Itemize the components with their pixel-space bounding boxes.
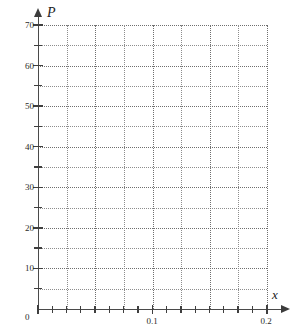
y-axis-title: P (47, 6, 56, 20)
gridline-vertical (67, 25, 68, 309)
gridline-vertical (124, 25, 125, 309)
gridline-vertical (181, 25, 182, 309)
x-axis-tick-label: 0.2 (260, 317, 271, 326)
y-axis-tick-major (33, 268, 43, 270)
y-axis-tick-label: 30 (25, 183, 34, 192)
y-axis-tick-label: 40 (25, 142, 34, 151)
y-axis-tick-major (33, 187, 43, 189)
y-axis-tick-major (33, 65, 43, 67)
origin-label: 0 (25, 313, 30, 322)
y-axis-tick-major (33, 24, 43, 26)
y-axis-tick-minor (34, 85, 42, 86)
x-axis-tick-minor (109, 306, 110, 313)
y-axis-tick-major (33, 105, 43, 107)
y-axis-tick-major (33, 146, 43, 148)
gridline-vertical (238, 25, 239, 309)
x-axis-tick-major (266, 305, 268, 314)
x-axis-tick-minor (223, 306, 224, 313)
gridline-vertical (95, 25, 96, 309)
x-axis-tick-label: 0.1 (146, 317, 157, 326)
y-axis-tick-label: 50 (25, 102, 34, 111)
y-axis-tick-minor (34, 288, 42, 289)
y-axis-tick-minor (34, 126, 42, 127)
y-axis-arrow-icon (34, 8, 42, 17)
gridline-vertical (267, 25, 268, 309)
x-axis-tick-minor (123, 306, 124, 313)
x-axis-tick-minor (94, 306, 95, 313)
plot-grid-area (38, 25, 267, 309)
gridline-vertical (210, 25, 211, 309)
x-axis-tick-major (37, 305, 39, 314)
x-axis-tick-minor (237, 306, 238, 313)
y-axis-tick-minor (34, 166, 42, 167)
x-axis-tick-minor (209, 306, 210, 313)
x-axis-line (38, 309, 284, 310)
y-axis-tick-label: 20 (25, 223, 34, 232)
x-axis-title: x (272, 288, 278, 301)
y-axis-tick-label: 60 (25, 61, 34, 70)
x-axis-tick-minor (137, 306, 138, 313)
x-axis-tick-minor (195, 306, 196, 313)
y-axis-tick-minor (34, 247, 42, 248)
x-axis-tick-minor (66, 306, 67, 313)
x-axis-arrow-icon (281, 305, 290, 313)
y-axis-line (38, 14, 39, 309)
gridline-vertical (153, 25, 154, 309)
x-axis-tick-minor (252, 306, 253, 313)
graph-figure: 70 60 50 40 30 20 10 0.1 0.2 P x 0 (0, 0, 299, 335)
y-axis-tick-minor (34, 207, 42, 208)
x-axis-tick-minor (180, 306, 181, 313)
y-axis-tick-label: 10 (25, 264, 34, 273)
y-axis-tick-major (33, 227, 43, 229)
x-axis-tick-minor (52, 306, 53, 313)
x-axis-tick-major (152, 305, 154, 314)
x-axis-tick-minor (166, 306, 167, 313)
x-axis-tick-minor (80, 306, 81, 313)
y-axis-tick-minor (34, 45, 42, 46)
y-axis-tick-label: 70 (25, 21, 34, 30)
